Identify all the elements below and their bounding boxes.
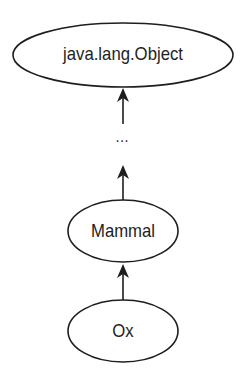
node-mammal-label: Mammal xyxy=(75,220,172,242)
ellipsis-label: … xyxy=(101,128,145,146)
node-ox-label: Ox xyxy=(75,320,172,342)
node-object-label: java.lang.Object xyxy=(26,43,220,65)
